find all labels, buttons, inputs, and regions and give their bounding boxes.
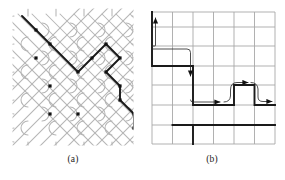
lattice-strands — [8, 4, 138, 150]
panel-b-svg — [146, 4, 278, 150]
panel-a-svg — [8, 4, 138, 150]
route-lower-shelf — [191, 100, 221, 102]
panel-a-caption: (a) — [8, 154, 138, 164]
panel-b-square-grid — [146, 4, 278, 150]
figure-root: (a) (b) — [0, 0, 285, 180]
route-down-turn — [152, 49, 191, 76]
panel-b-caption: (b) — [146, 154, 278, 164]
panel-a-diagonal-lattice — [8, 4, 138, 150]
